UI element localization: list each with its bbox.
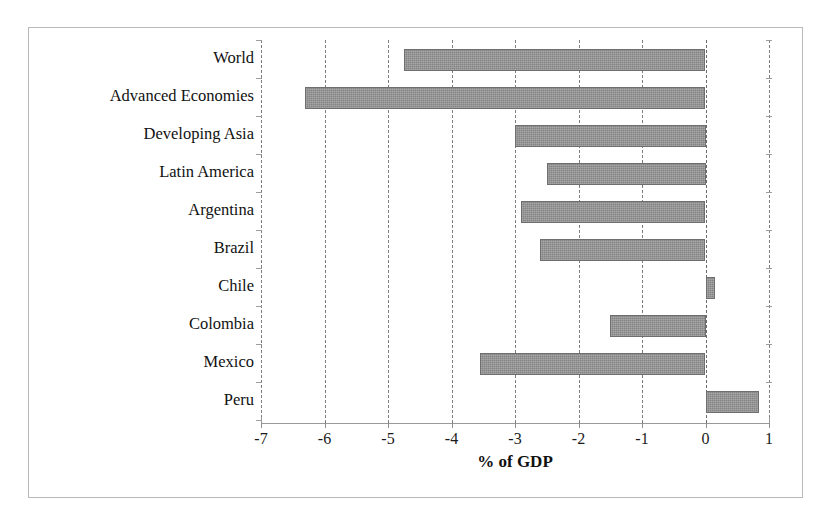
x-tick-label: -7 [241, 430, 281, 448]
bar-peru [706, 391, 760, 413]
gridline-0 [706, 40, 707, 423]
bar-brazil [540, 239, 705, 261]
y-tick [256, 40, 262, 41]
x-tick [388, 423, 389, 428]
y-tick [256, 268, 262, 269]
x-tick-label: -6 [305, 430, 345, 448]
category-label: Peru [24, 390, 254, 410]
bar-developing-asia [515, 125, 706, 147]
category-label: Advanced Economies [24, 86, 254, 106]
x-tick-label: -2 [559, 430, 599, 448]
y-tick [256, 116, 262, 117]
y-tick [256, 154, 262, 155]
category-label: Argentina [24, 200, 254, 220]
bar-latin-america [547, 163, 706, 185]
y-tick-right [766, 40, 772, 41]
category-label: Brazil [24, 238, 254, 258]
x-tick [642, 423, 643, 428]
x-tick-label: -5 [368, 430, 408, 448]
bar-chile [706, 277, 716, 299]
y-tick-right [766, 192, 772, 193]
y-tick [256, 306, 262, 307]
bar-mexico [480, 353, 705, 375]
bar-argentina [521, 201, 705, 223]
y-tick-right [766, 230, 772, 231]
bar-advanced-economies [305, 87, 705, 109]
category-axis-labels: World Advanced Economies Developing Asia… [18, 40, 254, 423]
category-label: Latin America [24, 162, 254, 182]
category-label: Chile [24, 276, 254, 296]
y-tick-right [766, 306, 772, 307]
x-axis-title: % of GDP [261, 452, 769, 472]
x-tick [579, 423, 580, 428]
y-tick-right [766, 268, 772, 269]
x-tick [515, 423, 516, 428]
gridline--7 [261, 40, 262, 423]
y-tick [256, 382, 262, 383]
x-tick-label: -1 [622, 430, 662, 448]
category-label: Developing Asia [24, 124, 254, 144]
bar-colombia [610, 315, 705, 337]
y-tick [256, 344, 262, 345]
y-tick-right [766, 382, 772, 383]
y-tick [256, 230, 262, 231]
x-tick [769, 423, 770, 428]
x-tick-label: 1 [749, 430, 789, 448]
category-label: Colombia [24, 314, 254, 334]
x-tick [706, 423, 707, 428]
x-tick [452, 423, 453, 428]
x-tick-label: -3 [495, 430, 535, 448]
category-label: World [24, 48, 254, 68]
plot-area [261, 40, 769, 423]
y-tick-right [766, 344, 772, 345]
x-tick [325, 423, 326, 428]
category-label: Mexico [24, 352, 254, 372]
y-tick-right [766, 116, 772, 117]
x-tick [261, 423, 262, 428]
x-tick-label: -4 [432, 430, 472, 448]
bar-world [404, 49, 706, 71]
x-tick-label: 0 [686, 430, 726, 448]
y-tick-right [766, 78, 772, 79]
y-tick [256, 78, 262, 79]
chart-figure: World Advanced Economies Developing Asia… [0, 0, 838, 524]
y-tick-right [766, 154, 772, 155]
y-tick [256, 192, 262, 193]
gridline-1 [769, 40, 770, 423]
